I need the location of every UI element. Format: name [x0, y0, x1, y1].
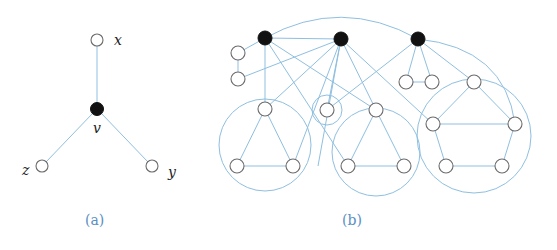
edge-v-z	[46, 113, 93, 162]
label-y: y	[167, 164, 177, 180]
edge-t2a-t2c	[376, 110, 404, 166]
edge-t1a-t1c	[265, 109, 293, 166]
edge-b1-t2b	[265, 38, 348, 166]
edge-v-y	[101, 113, 148, 162]
edge-p1-p3	[474, 82, 515, 124]
edge-b3-s	[327, 39, 418, 110]
edge-b2-l2	[238, 39, 341, 79]
label-z: z	[21, 162, 30, 178]
node-l2	[231, 72, 245, 86]
node-z	[36, 160, 48, 172]
panel-b: (b)	[219, 17, 531, 228]
node-p5	[495, 159, 509, 173]
node-t2c	[397, 159, 411, 173]
node-b2	[334, 32, 348, 46]
edge-b2-t2a	[341, 39, 376, 110]
node-p4	[439, 159, 453, 173]
group-circle-mid-triangle	[332, 108, 420, 196]
node-t1a	[258, 102, 272, 116]
node-t2b	[341, 159, 355, 173]
node-p2	[426, 117, 440, 131]
edge-p1-p2	[433, 82, 474, 124]
label-x: x	[114, 32, 122, 48]
node-b3	[411, 32, 425, 46]
edge-t2a-t2b	[348, 110, 376, 166]
node-p1	[467, 75, 481, 89]
label-v: v	[93, 120, 101, 136]
node-x	[91, 34, 103, 46]
node-p3	[508, 117, 522, 131]
node-s	[320, 103, 334, 117]
caption-b: (b)	[342, 212, 362, 228]
node-r1	[399, 75, 413, 89]
node-y	[146, 160, 158, 172]
edge-b1-t2a	[265, 38, 376, 110]
edge-t1a-t1b	[237, 109, 265, 166]
graph-figure: x v z y (a)	[0, 0, 557, 250]
edge-b2-t2b	[318, 39, 341, 166]
node-r2	[425, 75, 439, 89]
node-l1	[231, 46, 245, 60]
panel-a: x v z y (a)	[21, 32, 177, 228]
node-b1	[258, 31, 272, 45]
node-t2a	[369, 103, 383, 117]
group-circle-pentagon	[417, 79, 531, 193]
caption-a: (a)	[85, 212, 104, 228]
node-t1c	[286, 159, 300, 173]
edge-b2-t1c	[293, 39, 341, 166]
node-v	[91, 103, 104, 116]
edge-b1-b2	[265, 38, 341, 39]
edge-b3-p1	[418, 39, 474, 82]
node-t1b	[230, 159, 244, 173]
